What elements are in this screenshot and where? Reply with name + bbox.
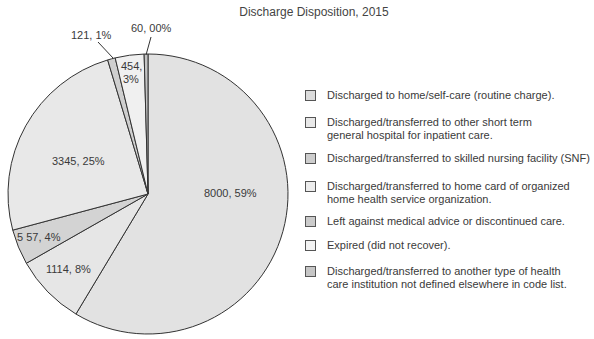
pie-chart: [0, 0, 300, 339]
legend-label: Discharged/transferred to another type o…: [327, 265, 594, 290]
legend-label: Discharged/transferred to other short te…: [327, 116, 594, 141]
slice-label-short-term-hospital: 3345, 25%: [52, 155, 105, 168]
slice-label-home-health: 1114, 8%: [46, 263, 91, 276]
legend-swatch: [305, 117, 316, 128]
legend-swatch: [305, 216, 316, 227]
slice-label-other-institution: 60, 00%: [131, 22, 171, 35]
legend-label: Discharged to home/self-care (routine ch…: [327, 89, 594, 102]
slice-label-expired: 454,: [121, 60, 142, 73]
legend-label: Discharged/transferred to home card of o…: [327, 180, 594, 205]
slice-label-left-ama: 121, 1%: [71, 29, 111, 42]
leader-line-left-ama: [98, 42, 113, 58]
slice-label-home-self-care: 8000, 59%: [204, 187, 257, 200]
slice-label-expired-pct: 3%: [123, 73, 139, 86]
legend-label: Discharged/transferred to skilled nursin…: [327, 152, 594, 165]
legend-swatch: [305, 153, 316, 164]
legend-label: Left against medical advice or discontin…: [327, 215, 594, 228]
legend-swatch: [305, 266, 316, 277]
slice-label-snf: 5 57, 4%: [17, 231, 60, 244]
leader-line-other-institution: [146, 37, 151, 55]
legend-swatch: [305, 181, 316, 192]
legend-swatch: [305, 240, 316, 251]
legend-label: Expired (did not recover).: [327, 239, 594, 252]
legend-swatch: [305, 90, 316, 101]
